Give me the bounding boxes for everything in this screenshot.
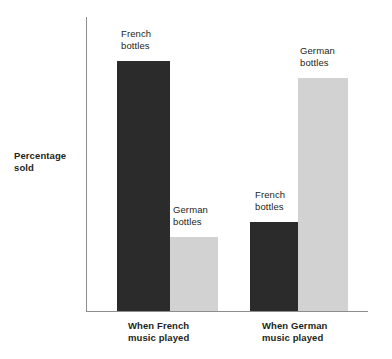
bar-label-line-1: French [255,189,285,201]
category-label-line-1: When French [128,320,189,332]
x-axis-category-label-2: When German music played [262,320,328,343]
bar-label-group1-german-bottles: German bottles [173,204,208,227]
bar-label-line-2: bottles [300,57,335,69]
bar-label-line-1: German [300,45,335,57]
category-label-line-1: When German [262,320,328,332]
bar-chart: Percentage sold French bottles German bo… [0,0,392,359]
category-label-line-2: music played [128,332,189,344]
bar-group1-german-bottles [170,237,218,311]
bar-label-group2-french-bottles: French bottles [255,189,285,212]
bar-group2-german-bottles [298,78,348,311]
category-label-line-2: music played [262,332,328,344]
bar-label-line-2: bottles [173,216,208,228]
bar-label-line-1: French [121,28,151,40]
bar-label-group2-german-bottles: German bottles [300,45,335,68]
bar-group2-french-bottles [250,222,298,311]
bar-label-line-1: German [173,204,208,216]
bar-label-group1-french-bottles: French bottles [121,28,151,51]
bar-label-line-2: bottles [255,201,285,213]
plot-area: French bottles German bottles French bot… [0,0,392,359]
x-axis-category-label-1: When French music played [128,320,189,343]
bar-group1-french-bottles [117,61,170,311]
bar-label-line-2: bottles [121,40,151,52]
